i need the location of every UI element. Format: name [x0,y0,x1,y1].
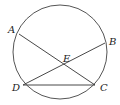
geometry-diagram: A B C D E [0,0,120,105]
label-d: D [11,82,20,93]
label-b: B [108,36,116,47]
label-a: A [7,24,15,35]
chord-bd [23,43,105,85]
chord-ac [19,34,95,85]
label-c: C [100,82,108,93]
label-e: E [62,53,71,64]
